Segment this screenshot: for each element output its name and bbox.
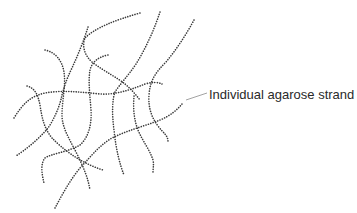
agarose-network-diagram: Individual agarose strand [0, 0, 357, 213]
strand-annotation-label: Individual agarose strand [209, 87, 354, 103]
annotation-leader-line [0, 0, 357, 213]
